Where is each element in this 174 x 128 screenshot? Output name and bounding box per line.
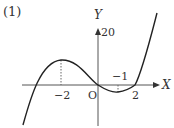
x-tick-2: 2 [132, 90, 139, 101]
y-axis-label: Y [94, 9, 102, 21]
x-axis-arrow-icon [153, 82, 160, 88]
x-axis-label: X [162, 79, 171, 91]
cubic-curve [23, 13, 157, 125]
min-value-label: −1 [112, 71, 128, 82]
x-tick-neg2: −2 [54, 90, 70, 101]
cubic-graph [0, 0, 174, 128]
y-tick-20: 20 [101, 27, 115, 38]
origin-label: O [88, 90, 97, 101]
